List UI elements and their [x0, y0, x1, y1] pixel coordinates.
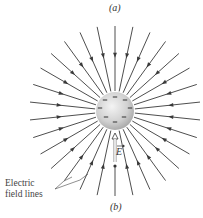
arrowhead-icon: [113, 53, 117, 58]
label-line-2: field lines: [5, 189, 43, 200]
caption-a: (a): [109, 2, 121, 13]
negative-charge-mark: [113, 122, 117, 123]
arrowhead-icon: [79, 62, 84, 67]
field-line: [127, 41, 166, 94]
field-line: [135, 113, 200, 120]
arrowhead-icon: [57, 103, 62, 107]
field-line: [64, 41, 103, 94]
arrowhead-icon: [57, 115, 62, 119]
arrowhead-icon: [168, 103, 173, 107]
field-line: [97, 27, 111, 92]
field-line: [127, 127, 166, 180]
field-line: [30, 102, 95, 109]
negative-charge-mark: [123, 100, 127, 101]
electric-field-vector-label: E: [116, 146, 122, 157]
field-line: [30, 113, 95, 120]
arrowhead-icon: [168, 115, 173, 119]
negative-charge-mark: [98, 108, 102, 109]
caption-b: (b): [110, 201, 122, 212]
negative-charge-mark: [113, 97, 117, 98]
arrowhead-icon: [58, 127, 64, 131]
label-line-1: Electric: [5, 178, 43, 189]
arrowhead-icon: [89, 56, 93, 62]
arrowhead-icon: [63, 80, 68, 84]
field-line: [64, 127, 103, 180]
field-line: [97, 131, 111, 196]
annotation-leader-lines: [55, 174, 88, 189]
arrowhead-icon: [89, 160, 93, 166]
arrowhead-icon: [58, 91, 64, 95]
arrowhead-icon: [137, 160, 141, 166]
field-line: [119, 131, 133, 196]
arrowhead-icon: [166, 127, 172, 131]
arrowhead-icon: [63, 138, 68, 142]
arrowhead-icon: [162, 80, 167, 84]
negative-charge-mark: [128, 108, 132, 109]
electric-field-lines-label: Electric field lines: [5, 178, 43, 199]
field-line: [119, 27, 133, 92]
negative-charge-mark: [122, 117, 126, 118]
negatively-charged-sphere: [96, 92, 134, 130]
negative-charge-mark: [103, 100, 107, 101]
arrowhead-icon: [147, 62, 152, 67]
arrowhead-icon: [147, 154, 152, 159]
negative-charge-mark: [104, 117, 108, 118]
arrowhead-icon: [137, 56, 141, 62]
arrowhead-icon: [79, 154, 84, 159]
field-line: [135, 102, 200, 109]
arrowhead-icon: [162, 138, 167, 142]
arrowhead-icon: [166, 91, 172, 95]
